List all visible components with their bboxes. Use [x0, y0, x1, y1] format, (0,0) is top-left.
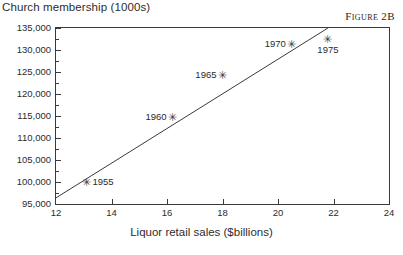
data-point-label: 1970 [265, 40, 286, 50]
y-tick-major [56, 116, 61, 117]
y-tick-label: 95,000 [22, 199, 51, 209]
y-tick-major [56, 72, 61, 73]
asterisk-marker-icon: ✳ [82, 176, 91, 187]
x-tick-label: 16 [162, 208, 173, 218]
y-tick-label: 100,000 [17, 177, 51, 187]
y-tick-minor [56, 39, 59, 40]
data-point-label: 1955 [93, 177, 114, 187]
x-tick-label: 14 [106, 208, 117, 218]
y-tick-minor [56, 61, 59, 62]
y-tick-label: 135,000 [17, 23, 51, 33]
asterisk-marker-icon: ✳ [323, 34, 332, 45]
y-tick-minor [56, 193, 59, 194]
y-tick-major [56, 94, 61, 95]
asterisk-marker-icon: ✳ [287, 39, 296, 50]
y-tick-major [56, 50, 61, 51]
asterisk-marker-icon: ✳ [168, 112, 177, 123]
x-tick-label: 22 [328, 208, 339, 218]
figure-caption: Figure 2B [345, 10, 395, 22]
y-tick-major [56, 204, 61, 205]
data-point-label: 1975 [317, 45, 338, 55]
x-tick-label: 18 [217, 208, 228, 218]
plot-area: 95,000100,000105,000110,000115,000120,00… [55, 27, 390, 205]
y-tick-minor [56, 171, 59, 172]
y-tick-label: 130,000 [17, 45, 51, 55]
y-tick-minor [56, 149, 59, 150]
y-tick-minor [56, 127, 59, 128]
x-tick-major [334, 199, 335, 204]
asterisk-marker-icon: ✳ [218, 69, 227, 80]
y-tick-label: 110,000 [17, 133, 51, 143]
y-tick-label: 120,000 [17, 89, 51, 99]
y-tick-major [56, 182, 61, 183]
y-tick-minor [56, 105, 59, 106]
x-tick-major [167, 199, 168, 204]
y-tick-major [56, 160, 61, 161]
x-tick-label: 20 [273, 208, 284, 218]
x-tick-label: 24 [384, 208, 395, 218]
x-tick-major [278, 199, 279, 204]
figure-2b-chart: Church membership (1000s) Figure 2B 95,0… [0, 0, 403, 255]
y-tick-minor [56, 83, 59, 84]
y-tick-major [56, 138, 61, 139]
data-point-label: 1965 [195, 70, 216, 80]
y-tick-label: 125,000 [17, 67, 51, 77]
y-tick-label: 105,000 [17, 155, 51, 165]
x-tick-major [223, 199, 224, 204]
x-axis-title: Liquor retail sales ($billions) [0, 226, 403, 238]
y-tick-major [56, 28, 61, 29]
y-axis-title: Church membership (1000s) [2, 1, 150, 13]
data-point-label: 1960 [145, 113, 166, 123]
y-tick-label: 115,000 [17, 111, 51, 121]
x-tick-label: 12 [51, 208, 62, 218]
x-tick-major [112, 199, 113, 204]
